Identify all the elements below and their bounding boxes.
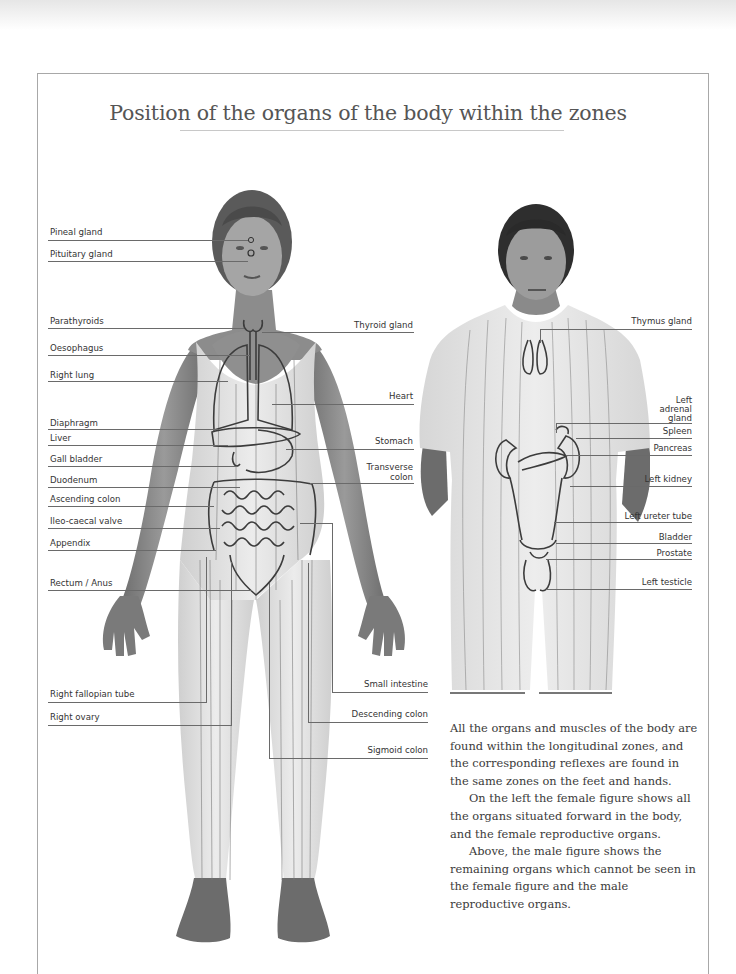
leader-small-intestine <box>332 692 428 693</box>
label-left-kidney: Left kidney <box>600 474 692 484</box>
label-duodenum: Duodenum <box>50 475 97 485</box>
label-ileo-caecal-valve: Ileo-caecal valve <box>50 516 122 526</box>
label-liver: Liver <box>50 433 71 443</box>
page-top-shadow <box>0 0 736 30</box>
leader-right-fallopian-tube-vertical <box>206 557 207 703</box>
label-left-testicle: Left testicle <box>600 577 692 587</box>
male-floor-line-left <box>450 692 525 694</box>
leader-ascending-colon <box>48 506 214 507</box>
label-right-lung: Right lung <box>50 370 94 380</box>
leader-descending-colon <box>308 722 428 723</box>
label-pituitary-gland: Pituitary gland <box>50 249 113 259</box>
label-heart: Heart <box>330 391 413 401</box>
label-stomach: Stomach <box>330 436 413 446</box>
label-ascending-colon: Ascending colon <box>50 494 120 504</box>
leader-duodenum <box>48 487 240 488</box>
leader-left-adrenal-gland-vertical <box>556 423 557 433</box>
leader-appendix <box>48 550 216 551</box>
leader-right-ovary-vertical <box>231 562 232 726</box>
label-bladder: Bladder <box>600 532 692 542</box>
leader-oesophagus <box>48 355 250 356</box>
label-right-fallopian-tube: Right fallopian tube <box>50 689 135 699</box>
leader-pineal-gland <box>48 240 248 241</box>
leader-left-kidney <box>570 486 692 487</box>
label-thyroid-gland: Thyroid gland <box>330 320 413 330</box>
paragraph-1: All the organs and muscles of the body a… <box>450 720 700 790</box>
label-descending-colon: Descending colon <box>310 709 428 719</box>
leader-ileo-caecal-valve <box>48 528 220 529</box>
label-gall-bladder: Gall bladder <box>50 454 102 464</box>
female-right-leg <box>178 560 254 880</box>
leader-pituitary-gland <box>48 261 248 262</box>
leader-parathyroids <box>48 328 244 329</box>
leader-sigmoid-colon <box>269 758 428 759</box>
leader-left-testicle <box>546 589 692 590</box>
leader-right-ovary <box>48 725 232 726</box>
leader-diaphragm <box>48 429 218 430</box>
leader-gall-bladder <box>48 466 238 467</box>
label-pancreas: Pancreas <box>600 443 692 453</box>
label-appendix: Appendix <box>50 538 90 548</box>
label-rectum-anus: Rectum / Anus <box>50 578 112 588</box>
leader-left-ureter-tube <box>554 522 692 523</box>
paragraph-2: On the left the female figure shows all … <box>450 790 700 843</box>
leader-descending-colon-vertical <box>308 563 309 723</box>
leader-spleen <box>576 438 692 439</box>
label-transverse-colon-line1: Transverse <box>330 462 413 472</box>
label-small-intestine: Small intestine <box>320 679 428 689</box>
label-prostate: Prostate <box>600 548 692 558</box>
leader-thymus-gland-vertical <box>540 329 541 343</box>
male-jumpsuit <box>419 305 650 690</box>
leader-sigmoid-colon-vertical <box>269 583 270 759</box>
leader-small-intestine-vertical <box>332 523 333 693</box>
leader-rectum-anus <box>48 590 252 591</box>
label-sigmoid-colon: Sigmoid colon <box>310 745 428 755</box>
label-pineal-gland: Pineal gland <box>50 227 103 237</box>
page-title: Position of the organs of the body withi… <box>0 101 736 125</box>
leader-right-fallopian-tube <box>48 702 207 703</box>
leader-prostate <box>546 559 692 560</box>
leader-thyroid-gland <box>262 332 414 333</box>
label-parathyroids: Parathyroids <box>50 316 104 326</box>
leader-transverse-colon <box>310 483 414 484</box>
leader-left-adrenal-gland <box>556 423 692 424</box>
leader-thymus-gland <box>540 329 692 330</box>
leader-heart <box>272 404 414 405</box>
male-floor-line-right <box>539 692 612 694</box>
leader-right-lung <box>48 381 228 382</box>
explanatory-text: All the organs and muscles of the body a… <box>450 720 700 914</box>
label-left-ureter-tube: Left ureter tube <box>590 511 692 521</box>
label-thymus-gland: Thymus gland <box>600 316 692 326</box>
leader-bladder <box>556 543 692 544</box>
female-left-leg <box>256 560 332 880</box>
female-figure-illustration <box>90 190 420 950</box>
leader-liver <box>48 445 228 446</box>
label-oesophagus: Oesophagus <box>50 343 103 353</box>
paragraph-3: Above, the male figure shows the remaini… <box>450 843 700 913</box>
label-diaphragm: Diaphragm <box>50 418 98 428</box>
title-underline <box>180 130 564 131</box>
label-transverse-colon-line2: colon <box>330 472 413 482</box>
leader-stomach <box>286 449 414 450</box>
leader-small-intestine-top <box>300 523 333 524</box>
leader-pancreas <box>566 455 692 456</box>
label-right-ovary: Right ovary <box>50 712 100 722</box>
label-left-adrenal-gland-line3: gland <box>600 413 692 423</box>
label-spleen: Spleen <box>600 426 692 436</box>
